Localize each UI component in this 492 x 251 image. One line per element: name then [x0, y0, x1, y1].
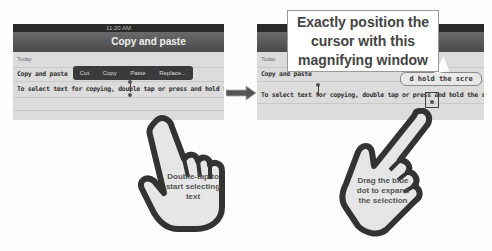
date-label: Today: [261, 56, 276, 62]
menu-item-cut[interactable]: Cut: [77, 70, 92, 76]
edit-popup-menu: Cut Copy Paste Replace...: [73, 66, 193, 80]
divider: [13, 110, 224, 111]
note-body[interactable]: To select text for copying, double tap o…: [17, 85, 224, 93]
callout-box: Exactly position the cursor with this ma…: [287, 10, 439, 72]
divider: [13, 81, 224, 82]
menu-item-paste[interactable]: Paste: [127, 70, 148, 76]
pointing-hand-icon: [338, 108, 438, 238]
menu-item-replace[interactable]: Replace...: [156, 70, 189, 76]
left-screenshot-panel: 11:20 AM Copy and paste Today Copy and p…: [13, 24, 224, 120]
title-bar: Copy and paste: [13, 32, 224, 52]
menu-item-copy[interactable]: Copy: [100, 70, 120, 76]
note-body[interactable]: To select text for copying, double tap o…: [261, 91, 484, 99]
status-bar: 11:20 AM: [13, 24, 224, 32]
note-title: Copy and paste: [17, 70, 68, 78]
right-arrow-icon: [226, 86, 256, 100]
divider: [257, 103, 484, 104]
blue-dot-handle[interactable]: [430, 100, 434, 104]
hand-label-right: Drag the blue dot to expand the selectio…: [354, 176, 412, 206]
selection-handle-end[interactable]: [128, 93, 132, 97]
divider: [13, 97, 224, 98]
selection-handle-start[interactable]: [128, 80, 132, 84]
selection-handle-start[interactable]: [316, 83, 320, 87]
hand-label-left: Double-tap to start selecting text: [164, 172, 222, 202]
date-label: Today: [17, 56, 32, 62]
